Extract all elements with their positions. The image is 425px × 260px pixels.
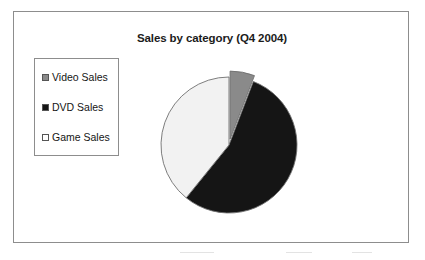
scan-artifact: [286, 252, 312, 253]
chart-legend: Video Sales DVD Sales Game Sales: [34, 58, 119, 156]
legend-swatch-video-sales: [42, 74, 49, 81]
legend-item-game-sales[interactable]: Game Sales: [42, 132, 110, 143]
legend-swatch-game-sales: [42, 134, 49, 141]
legend-item-video-sales[interactable]: Video Sales: [42, 72, 108, 83]
legend-label-game-sales: Game Sales: [52, 132, 110, 143]
scan-artifact: [352, 252, 372, 253]
pie-chart: [148, 46, 308, 226]
legend-label-dvd-sales: DVD Sales: [52, 102, 103, 113]
chart-title: Sales by category (Q4 2004): [14, 32, 410, 44]
scan-artifact: [180, 252, 214, 253]
legend-item-dvd-sales[interactable]: DVD Sales: [42, 102, 103, 113]
legend-swatch-dvd-sales: [42, 104, 49, 111]
legend-label-video-sales: Video Sales: [52, 72, 108, 83]
chart-frame: Sales by category (Q4 2004) Video Sales …: [13, 11, 409, 243]
pie-chart-svg: [148, 46, 308, 226]
